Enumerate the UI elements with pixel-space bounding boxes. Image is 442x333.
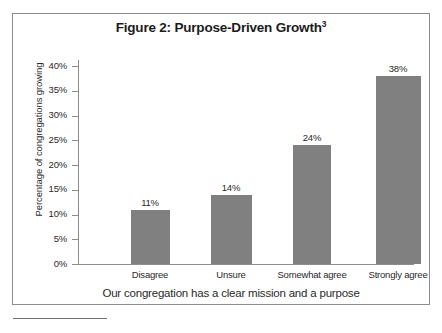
y-axis-tick-label: 15% (49, 183, 67, 194)
footnote-separator-rule (13, 318, 107, 319)
figure-container: Figure 2: Purpose-Driven Growth3 Percent… (12, 13, 430, 305)
x-axis-title: Our congregation has a clear mission and… (43, 287, 419, 299)
x-axis-category-label: Strongly agree (348, 269, 442, 280)
bar-group[interactable]: 11% (131, 210, 170, 264)
y-axis-tick-label: 10% (49, 208, 67, 219)
y-axis-tick-label: 35% (49, 84, 67, 95)
bar[interactable] (211, 195, 252, 264)
y-axis-tick-label: 0% (54, 258, 67, 269)
bar[interactable] (376, 76, 421, 264)
y-axis-tick-label: 20% (49, 159, 67, 170)
bar-value-label: 11% (111, 197, 190, 208)
bar-value-label: 24% (273, 132, 351, 143)
x-axis-category-label: Somewhat agree (262, 269, 362, 280)
bar-series: 11%14%24%38% (78, 14, 414, 265)
y-axis-tick-label: 5% (54, 233, 67, 244)
bar-group[interactable]: 38% (376, 76, 421, 264)
y-axis-title: Percentage of congregations growing (33, 25, 44, 255)
bar[interactable] (293, 145, 331, 264)
bar-group[interactable]: 24% (293, 145, 331, 264)
bar[interactable] (131, 210, 170, 264)
x-axis-category-labels: DisagreeUnsureSomewhat agreeStrongly agr… (78, 269, 414, 287)
plot-area: Percentage of congregations growing 40%3… (13, 14, 429, 304)
bar-value-label: 38% (356, 63, 441, 74)
bar-value-label: 14% (191, 182, 272, 193)
y-axis-tick-label: 40% (49, 60, 67, 71)
bar-group[interactable]: 14% (211, 195, 252, 264)
y-axis-tick-label: 25% (49, 134, 67, 145)
y-axis-tick-label: 30% (49, 109, 67, 120)
